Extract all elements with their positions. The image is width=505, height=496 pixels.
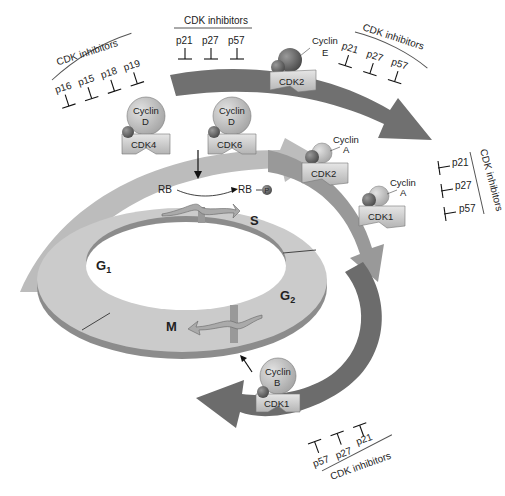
- svg-text:Cyclin: Cyclin: [312, 35, 338, 46]
- svg-text:CDK6: CDK6: [217, 139, 242, 150]
- complex-cdk4-cyclin-d: Cyclin D CDK4: [122, 97, 170, 154]
- svg-text:A: A: [400, 187, 407, 198]
- svg-text:p57: p57: [459, 203, 476, 214]
- svg-text:p27: p27: [365, 48, 385, 64]
- mitosis-arrow: [244, 360, 252, 372]
- svg-text:p21: p21: [341, 40, 361, 56]
- svg-text:D: D: [142, 116, 149, 127]
- svg-text:CDK inhibitors: CDK inhibitors: [478, 148, 505, 213]
- svg-text:CDK1: CDK1: [264, 398, 289, 409]
- svg-text:D: D: [228, 116, 235, 127]
- inhibitor-group-cyclin-e: CDK inhibitors p21 p27 p57: [337, 17, 436, 90]
- svg-text:p57: p57: [311, 453, 331, 469]
- complex-cdk1-cyclin-a: CDK1 Cyclin A: [359, 177, 416, 228]
- svg-text:Cyclin: Cyclin: [265, 366, 291, 377]
- svg-text:CDK4: CDK4: [131, 139, 156, 150]
- svg-text:p18: p18: [99, 65, 119, 81]
- svg-text:p21: p21: [354, 431, 374, 447]
- svg-text:p16: p16: [54, 79, 74, 95]
- rb-p-label: RB: [238, 184, 252, 195]
- rb-label: RB: [158, 184, 172, 195]
- svg-text:p19: p19: [122, 57, 142, 73]
- svg-text:p27: p27: [202, 35, 219, 46]
- phase-s-label: S: [250, 213, 259, 228]
- svg-text:B: B: [274, 377, 280, 388]
- svg-text:A: A: [343, 144, 350, 155]
- svg-text:p27: p27: [334, 445, 354, 461]
- svg-text:p27: p27: [455, 180, 472, 191]
- svg-text:CDK2: CDK2: [279, 76, 304, 87]
- svg-text:Cyclin: Cyclin: [133, 105, 159, 116]
- svg-text:p21: p21: [452, 157, 469, 168]
- phosphate-label: P: [265, 187, 270, 194]
- inhibitor-group-ink4: CDK inhibitors p16 p15 p18 p19: [46, 32, 147, 108]
- svg-text:E: E: [322, 47, 328, 58]
- svg-text:p21: p21: [176, 35, 193, 46]
- complex-cdk6-cyclin-d: Cyclin D CDK6: [208, 97, 256, 154]
- svg-text:CDK inhibitors: CDK inhibitors: [184, 15, 248, 26]
- svg-text:CDK2: CDK2: [311, 168, 336, 179]
- inhibitor-group-cyclin-b: p57 p27 p21 CDK inhibitors: [306, 416, 400, 486]
- complex-cdk2-cyclin-a: CDK2 Cyclin A: [302, 134, 359, 185]
- svg-text:Cyclin: Cyclin: [219, 105, 245, 116]
- svg-text:CDK inhibitors: CDK inhibitors: [55, 37, 119, 67]
- svg-text:CDK1: CDK1: [368, 211, 393, 222]
- inhibitor-group-top: CDK inhibitors p21 p27 p57: [174, 15, 252, 59]
- svg-text:p57: p57: [228, 35, 245, 46]
- svg-text:p57: p57: [390, 56, 410, 72]
- cell-cycle-diagram: G1 S G2 M RB RB P Cyclin D CDK4 Cyclin D…: [0, 0, 505, 496]
- svg-text:p15: p15: [76, 72, 96, 88]
- inhibitor-group-cyclin-a: CDK inhibitors p21 p27 p57: [438, 148, 505, 221]
- complex-cdk1-cyclin-b: Cyclin B CDK1: [256, 358, 300, 412]
- phase-m-label: M: [166, 319, 177, 334]
